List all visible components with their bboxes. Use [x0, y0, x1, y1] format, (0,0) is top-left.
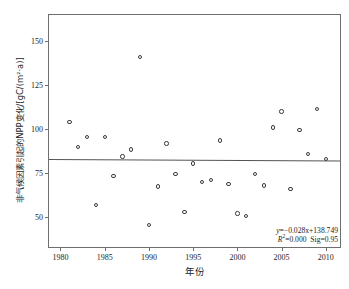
- data-point: [306, 152, 310, 156]
- x-tick-mark: [193, 247, 194, 251]
- data-point: [200, 180, 204, 184]
- data-point: [324, 157, 328, 161]
- data-point: [129, 147, 133, 151]
- data-point: [173, 172, 177, 176]
- data-point: [76, 145, 80, 149]
- x-tick-label: 1980: [52, 253, 68, 262]
- data-point: [279, 109, 283, 113]
- x-tick-label: 1985: [97, 253, 113, 262]
- x-tick-label: 1990: [141, 253, 157, 262]
- data-point: [103, 135, 107, 139]
- data-point: [94, 203, 98, 207]
- y-axis-title: 非气候因素引起的NPP变化/[gC/(m²·a)]: [13, 15, 25, 245]
- data-point: [67, 120, 71, 124]
- data-point: [147, 223, 151, 227]
- data-point: [85, 135, 89, 139]
- data-point: [156, 184, 160, 188]
- data-point: [271, 125, 275, 129]
- scatter-chart-figure: 非气候因素引起的NPP变化/[gC/(m²·a)] 5075100125150 …: [0, 0, 349, 289]
- significance-value: Sig=0.95: [310, 235, 338, 244]
- data-point: [235, 211, 239, 215]
- data-points-layer: [49, 15, 340, 247]
- x-tick-mark: [237, 247, 238, 251]
- y-tick-label: 150: [31, 37, 43, 46]
- equation-body: =−0.028x+138.749: [280, 226, 338, 235]
- data-point: [226, 182, 230, 186]
- x-tick-mark: [105, 247, 106, 251]
- x-tick-mark: [282, 247, 283, 251]
- data-point: [191, 161, 195, 165]
- x-tick-label: 2010: [318, 253, 334, 262]
- data-point: [120, 154, 124, 158]
- r-squared-value: =0.000: [285, 235, 306, 244]
- x-tick-label: 2005: [274, 253, 290, 262]
- data-point: [253, 172, 257, 176]
- data-point: [182, 210, 186, 214]
- data-point: [218, 138, 222, 142]
- data-point: [315, 107, 319, 111]
- y-tick-label: 125: [31, 81, 43, 90]
- x-tick-mark: [326, 247, 327, 251]
- x-tick-mark: [149, 247, 150, 251]
- x-tick-label: 1995: [185, 253, 201, 262]
- x-axis-title: 年份: [48, 264, 341, 278]
- data-point: [209, 178, 213, 182]
- y-tick-label: 75: [35, 169, 43, 178]
- data-point: [138, 55, 142, 59]
- y-tick-label: 100: [31, 125, 43, 134]
- data-point: [164, 141, 168, 145]
- data-point: [262, 183, 266, 187]
- plot-area: 5075100125150 19801985199019952000200520…: [48, 14, 341, 248]
- y-tick-label: 50: [35, 213, 43, 222]
- regression-stats-line: R2=0.000 Sig=0.95: [276, 236, 338, 245]
- x-tick-mark: [60, 247, 61, 251]
- data-point: [288, 187, 292, 191]
- data-point: [244, 214, 248, 218]
- data-point: [111, 174, 115, 178]
- regression-annotation: y=−0.028x+138.749 R2=0.000 Sig=0.95: [276, 227, 338, 245]
- x-tick-label: 2000: [229, 253, 245, 262]
- data-point: [297, 128, 301, 132]
